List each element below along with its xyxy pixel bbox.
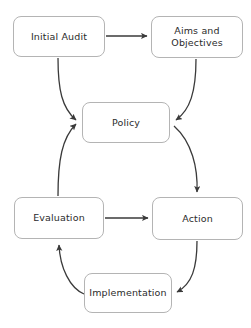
edge-action-to-implementation: [177, 241, 197, 292]
node-label-evaluation: Evaluation: [30, 212, 88, 224]
node-action[interactable]: Action: [152, 197, 243, 240]
node-label-action: Action: [179, 213, 216, 225]
edge-policy-to-action: [174, 126, 197, 192]
node-implementation[interactable]: Implementation: [84, 273, 172, 313]
node-evaluation[interactable]: Evaluation: [14, 197, 104, 239]
edge-evaluation-to-policy: [58, 124, 76, 196]
node-initial-audit[interactable]: Initial Audit: [13, 16, 105, 57]
edge-implementation-to-evaluation: [59, 245, 84, 294]
node-policy[interactable]: Policy: [82, 102, 170, 143]
node-label-aims-and-objectives: Aims and Objectives: [168, 25, 226, 49]
diagram-canvas: Initial Audit Aims and Objectives Policy…: [0, 0, 251, 328]
node-label-initial-audit: Initial Audit: [28, 31, 90, 43]
node-label-policy: Policy: [109, 117, 143, 129]
edge-initial-audit-to-policy: [58, 58, 76, 120]
node-aims-and-objectives[interactable]: Aims and Objectives: [151, 16, 243, 58]
edge-aims-to-policy: [176, 59, 196, 120]
node-label-implementation: Implementation: [86, 287, 170, 299]
